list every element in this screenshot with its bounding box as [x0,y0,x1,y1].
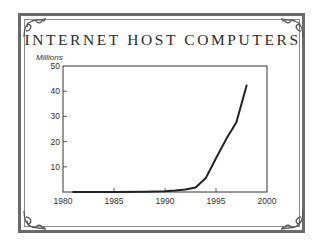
y-tick-label: 50 [51,61,61,71]
data-line [73,85,246,192]
line-chart: 1020304050 19801985199019952000 [0,0,325,247]
x-tick-label: 1990 [156,196,175,206]
plot-frame [63,66,267,192]
y-tick-label: 40 [51,86,61,96]
x-tick-label: 2000 [258,196,277,206]
y-tick-label: 10 [51,162,61,172]
y-axis: 1020304050 [51,61,67,172]
x-tick-label: 1980 [54,196,73,206]
x-tick-label: 1985 [105,196,124,206]
y-tick-label: 30 [51,111,61,121]
plot-area [63,66,267,192]
x-tick-label: 1995 [207,196,226,206]
y-tick-label: 20 [51,137,61,147]
